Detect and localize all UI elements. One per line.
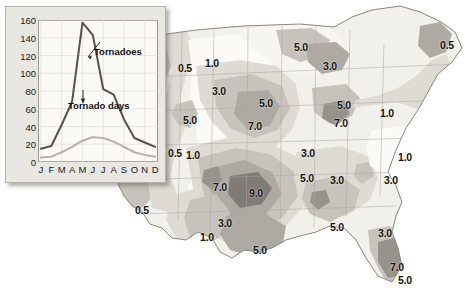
chart-plot-area bbox=[38, 20, 158, 162]
map-contour-label: 7.0 bbox=[390, 262, 404, 273]
map-contour-label: 0.5 bbox=[178, 63, 192, 74]
map-contour-label: 9.0 bbox=[249, 188, 263, 199]
map-contour-label: 5.0 bbox=[330, 222, 344, 233]
map-contour-label: 1.0 bbox=[380, 108, 394, 119]
map-contour-label: 3.0 bbox=[218, 218, 232, 229]
map-contour-label: 7.0 bbox=[334, 118, 348, 129]
y-tick-label: 80 bbox=[6, 87, 36, 96]
map-contour-label: 5.0 bbox=[253, 245, 267, 256]
figure-root: 0.5 1.0 5.0 3.0 5.0 7.0 0.5 1.0 3.0 5.0 … bbox=[0, 0, 472, 296]
x-tick-label: D bbox=[149, 164, 161, 175]
map-contour-label: 3.0 bbox=[384, 175, 398, 186]
y-tick-label: 120 bbox=[6, 51, 36, 60]
series-label-tornado-days: Tornado days bbox=[68, 101, 120, 112]
map-contour-label: 0.5 bbox=[440, 40, 454, 51]
map-contour-label: 1.0 bbox=[205, 58, 219, 69]
map-contour-label: 0.5 bbox=[168, 148, 182, 159]
y-tick-label: 60 bbox=[6, 104, 36, 113]
map-contour-label: 5.0 bbox=[183, 115, 197, 126]
y-tick-label: 40 bbox=[6, 122, 36, 131]
map-contour-label: 3.0 bbox=[330, 175, 344, 186]
y-tick-label: 20 bbox=[6, 140, 36, 149]
map-contour-label: 5.0 bbox=[300, 173, 314, 184]
y-tick-label: 160 bbox=[6, 16, 36, 25]
series-label-tornadoes: Tornadoes bbox=[94, 47, 142, 58]
chart-series-svg bbox=[38, 20, 158, 162]
x-axis-tick-labels: JFMAMJJASOND bbox=[38, 164, 160, 178]
map-contour-label: 5.0 bbox=[337, 100, 351, 111]
map-contour-label: 1.0 bbox=[200, 232, 214, 243]
map-contour-label: 5.0 bbox=[398, 275, 412, 286]
map-contour-label: 3.0 bbox=[323, 61, 337, 72]
map-contour-label: 7.0 bbox=[213, 182, 227, 193]
map-contour-label: 7.0 bbox=[248, 121, 262, 132]
y-tick-label: 100 bbox=[6, 69, 36, 78]
y-axis-tick-labels: 020406080100120140160 bbox=[6, 20, 36, 162]
map-contour-label: 3.0 bbox=[378, 228, 392, 239]
map-contour-label: 3.0 bbox=[301, 148, 315, 159]
map-contour-label: 0.5 bbox=[135, 205, 149, 216]
map-contour-label: 3.0 bbox=[212, 86, 226, 97]
y-tick-label: 0 bbox=[6, 158, 36, 167]
map-contour-label: 1.0 bbox=[186, 150, 200, 161]
map-contour-label: 1.0 bbox=[398, 152, 412, 163]
map-contour-label: 5.0 bbox=[294, 42, 308, 53]
series-line-tornadoes bbox=[41, 23, 155, 149]
map-contour-label: 5.0 bbox=[259, 98, 273, 109]
y-tick-label: 140 bbox=[6, 33, 36, 42]
inset-chart-panel: 020406080100120140160 Tornadoes Tornado … bbox=[5, 6, 166, 183]
